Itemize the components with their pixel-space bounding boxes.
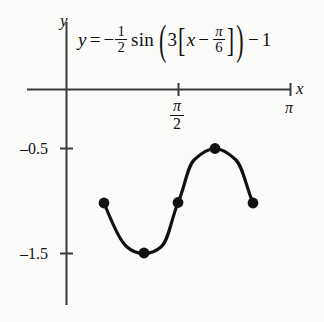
- phase-fraction: π 6: [213, 24, 225, 56]
- open-paren: (: [159, 18, 167, 61]
- y-tick-label-neg-1-5: –1.5: [20, 246, 48, 262]
- pi-over-2-numerator: π: [170, 98, 184, 115]
- equation-function-name: sin: [131, 30, 154, 49]
- inner-multiplier: 3: [167, 30, 177, 49]
- y-axis-label: y: [60, 12, 68, 29]
- math-graph-figure: y = − 1 2 sin ( 3 [ x − π 6 ] ) − 1 y x …: [0, 0, 324, 322]
- coefficient-numerator: 1: [115, 24, 127, 39]
- equation-leading-minus: −: [104, 30, 115, 49]
- data-point: [210, 143, 221, 154]
- vertical-shift-value: 1: [262, 30, 272, 49]
- data-point: [99, 198, 110, 209]
- y-tick-label-neg-0-5: –0.5: [20, 141, 48, 157]
- data-point: [248, 198, 259, 209]
- data-point: [173, 197, 184, 208]
- equation-lhs: y: [78, 30, 87, 49]
- x-axis-label: x: [296, 80, 304, 97]
- x-tick-label-pi: π: [285, 100, 293, 116]
- trailing-minus: −: [248, 30, 259, 49]
- pi-over-2-denominator: 2: [170, 115, 184, 133]
- inner-minus: −: [198, 30, 209, 49]
- phase-denominator: 6: [213, 39, 225, 55]
- phase-numerator: π: [213, 24, 225, 39]
- coefficient-fraction: 1 2: [115, 24, 127, 56]
- data-point: [139, 248, 150, 259]
- coefficient-denominator: 2: [115, 39, 127, 55]
- x-tick-label-pi-over-2: π 2: [170, 98, 184, 133]
- close-paren: ): [236, 18, 244, 61]
- equation-equals: =: [90, 30, 101, 49]
- open-bracket: [: [178, 23, 186, 56]
- equation-variable: x: [187, 30, 196, 49]
- equation-expression: y = − 1 2 sin ( 3 [ x − π 6 ] ) − 1: [78, 24, 272, 56]
- close-bracket: ]: [227, 23, 235, 56]
